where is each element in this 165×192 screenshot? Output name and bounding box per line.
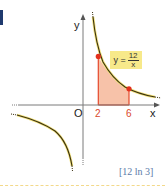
curve-branch-negative — [17, 115, 72, 166]
curve-dotted-top — [93, 12, 94, 17]
x-axis-label: x — [150, 107, 156, 119]
origin-label: O — [74, 107, 83, 119]
y-axis-arrow-icon — [81, 14, 86, 20]
equation-label: y = 12 x — [110, 51, 142, 69]
point-x2 — [96, 54, 101, 59]
equation-denominator: x — [131, 61, 135, 69]
equation-fraction: 12 x — [128, 52, 139, 69]
tick-label-2: 2 — [95, 108, 101, 119]
y-axis-label: y — [74, 19, 80, 31]
answer-text: [12 ln 3] — [119, 166, 153, 177]
tick-label-6: 6 — [126, 108, 132, 119]
point-x6 — [126, 86, 131, 91]
curve-dotted-right — [155, 97, 161, 98]
equation-lhs: y = — [113, 55, 125, 65]
dashed-separator — [0, 185, 165, 186]
hyperbola-graph — [0, 0, 165, 192]
curve-dotted-left — [11, 114, 17, 115]
curve-dotted-bottom — [72, 166, 73, 171]
